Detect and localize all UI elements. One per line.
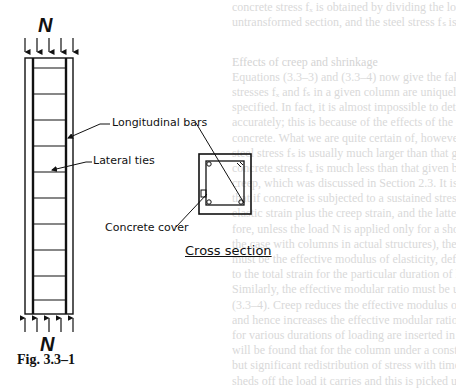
leader-lines (52, 123, 244, 227)
load-label-top: N (38, 14, 52, 37)
label-longitudinal-bars: Longitudinal bars (112, 116, 207, 129)
bottom-load-arrows (25, 318, 73, 332)
cross-section-drawing (199, 154, 251, 214)
top-load-arrows (25, 38, 73, 52)
label-concrete-cover: Concrete cover (105, 221, 189, 234)
label-cross-section: Cross section (185, 243, 272, 258)
column-elevation (25, 58, 73, 314)
label-lateral-ties: Lateral ties (93, 154, 155, 167)
figure-caption: Fig. 3.3–1 (17, 352, 75, 368)
